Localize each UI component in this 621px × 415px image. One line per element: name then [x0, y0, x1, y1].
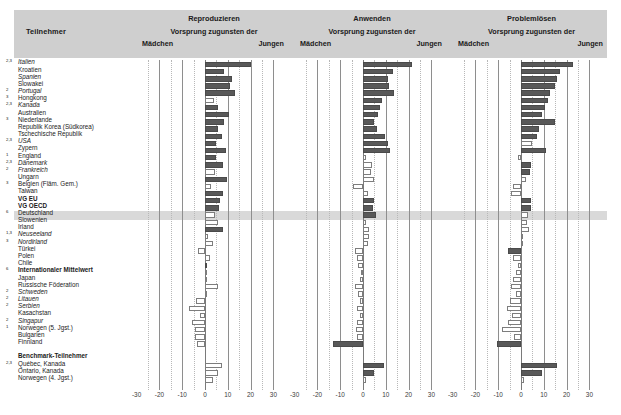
bar: [205, 134, 222, 139]
bar: [205, 169, 215, 174]
panel-girls-label: Mädchen: [300, 39, 331, 48]
bar: [502, 327, 521, 332]
footnote-marker: 2,3: [6, 100, 12, 108]
bar: [357, 255, 363, 260]
bar: [355, 284, 363, 289]
bar: [363, 119, 374, 124]
bar: [355, 248, 363, 253]
bar: [521, 76, 557, 81]
bar: [521, 90, 550, 95]
chart-panel-2: [298, 60, 446, 390]
bar: [205, 370, 218, 375]
gridline-minor: [194, 60, 195, 390]
gridline-minor: [555, 60, 556, 390]
bar: [521, 205, 531, 210]
gridline-major: [159, 60, 160, 390]
axis-tick-label: 10: [540, 391, 547, 398]
bar: [205, 148, 226, 153]
panel-title: Problemlösen: [456, 14, 607, 23]
axis-tick-label: 0: [361, 391, 365, 398]
panel-subtitle: Vorsprung zugunsten der: [456, 27, 607, 36]
bar: [363, 169, 371, 174]
footnote-marker: 2,3: [6, 136, 12, 144]
bar: [205, 69, 224, 74]
bar: [512, 313, 521, 318]
panel-header-1: ReproduzierenVorsprung zugunsten derMädc…: [140, 10, 288, 58]
gridline-minor: [487, 60, 488, 390]
participant-label: Finnland: [18, 338, 42, 346]
gridline-major: [251, 60, 252, 390]
axis-tick-label: -20: [313, 391, 322, 398]
bar: [361, 270, 363, 275]
bar: [363, 212, 376, 217]
bar: [205, 105, 218, 110]
participant-label: Norwegen (4. Jgst.): [18, 374, 73, 382]
bar: [521, 126, 539, 131]
bar: [360, 298, 363, 303]
footnote-marker: 6: [6, 265, 8, 273]
bar: [363, 141, 388, 146]
bar: [333, 341, 363, 346]
bar: [363, 363, 384, 368]
gridline-major: [409, 60, 410, 390]
axis-tick-label: 10: [224, 391, 231, 398]
bar: [363, 76, 388, 81]
bar: [363, 205, 373, 210]
axis-tick-label: 0: [519, 391, 523, 398]
chart-header: Teilnehmer ReproduzierenVorsprung zuguns…: [14, 10, 607, 58]
gridline-major: [431, 60, 432, 390]
bar: [357, 334, 363, 339]
bar: [521, 212, 528, 217]
axis-tick-label: 30: [586, 391, 593, 398]
bar: [205, 83, 230, 88]
bar: [205, 62, 251, 67]
bar: [205, 284, 218, 289]
gridline-minor: [306, 60, 307, 390]
gridline-major: [475, 60, 476, 390]
gridline-major: [228, 60, 229, 390]
chart-panel-1: [140, 60, 288, 390]
bar: [205, 205, 219, 210]
bar: [205, 212, 215, 217]
panel-subtitle: Vorsprung zugunsten der: [298, 27, 446, 36]
bar: [507, 306, 521, 311]
bar: [205, 98, 214, 103]
panel-girls-label: Mädchen: [458, 39, 489, 48]
bar: [192, 320, 205, 325]
bar: [513, 184, 521, 189]
bar: [205, 291, 207, 296]
bar: [518, 263, 521, 268]
panel-subtitle: Vorsprung zugunsten der: [140, 27, 288, 36]
bar: [205, 198, 220, 203]
panel-header-2: AnwendenVorsprung zugunsten derMädchenJu…: [298, 10, 446, 58]
bar: [363, 234, 369, 239]
bar: [516, 291, 521, 296]
gridline-minor: [397, 60, 398, 390]
bar: [514, 334, 521, 339]
bar: [205, 90, 235, 95]
bar: [358, 291, 363, 296]
panel-boys-label: Jungen: [416, 39, 442, 48]
bar: [360, 277, 363, 282]
bar: [363, 191, 368, 196]
panel-girls-label: Mädchen: [142, 39, 173, 48]
footnote-marker: 2: [6, 165, 8, 173]
bar: [497, 341, 521, 346]
bar: [521, 69, 560, 74]
gridline-minor: [262, 60, 263, 390]
bar: [363, 241, 368, 246]
x-axis-3: -30-20-100102030: [456, 391, 607, 407]
axis-tick-label: 30: [428, 391, 435, 398]
axis-tick-label: 30: [270, 391, 277, 398]
bar: [363, 98, 382, 103]
participant-name: Norwegen (4. Jgst.): [18, 374, 73, 382]
axis-tick-label: -10: [178, 391, 187, 398]
panel-title: Reproduzieren: [140, 14, 288, 23]
panel-header-3: ProblemlösenVorsprung zugunsten derMädch…: [456, 10, 607, 58]
gridline-minor: [329, 60, 330, 390]
chart-panel-3: [456, 60, 607, 390]
bar: [363, 177, 374, 182]
bar: [363, 112, 378, 117]
gridline-minor: [578, 60, 579, 390]
gridline-major: [589, 60, 590, 390]
